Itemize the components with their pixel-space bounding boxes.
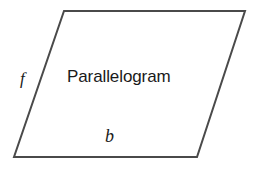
shape-name-label: Parallelogram [67, 68, 171, 85]
parallelogram-figure: Parallelogram f b [0, 0, 256, 173]
side-label-f: f [20, 70, 25, 87]
side-label-b: b [105, 127, 114, 145]
parallelogram-canvas [0, 0, 256, 173]
